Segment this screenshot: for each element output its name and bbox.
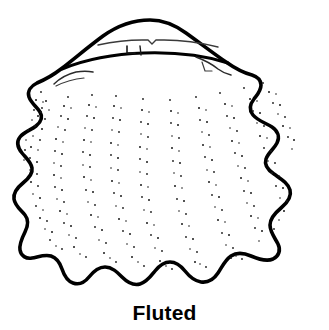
shell-outline-group <box>14 20 291 285</box>
byssal-notch-tick <box>140 46 141 55</box>
figure-root: Fluted <box>0 0 329 330</box>
scallop-shell-illustration <box>0 0 329 300</box>
shell-outline-path <box>14 20 291 285</box>
figure-caption: Fluted <box>0 300 329 326</box>
